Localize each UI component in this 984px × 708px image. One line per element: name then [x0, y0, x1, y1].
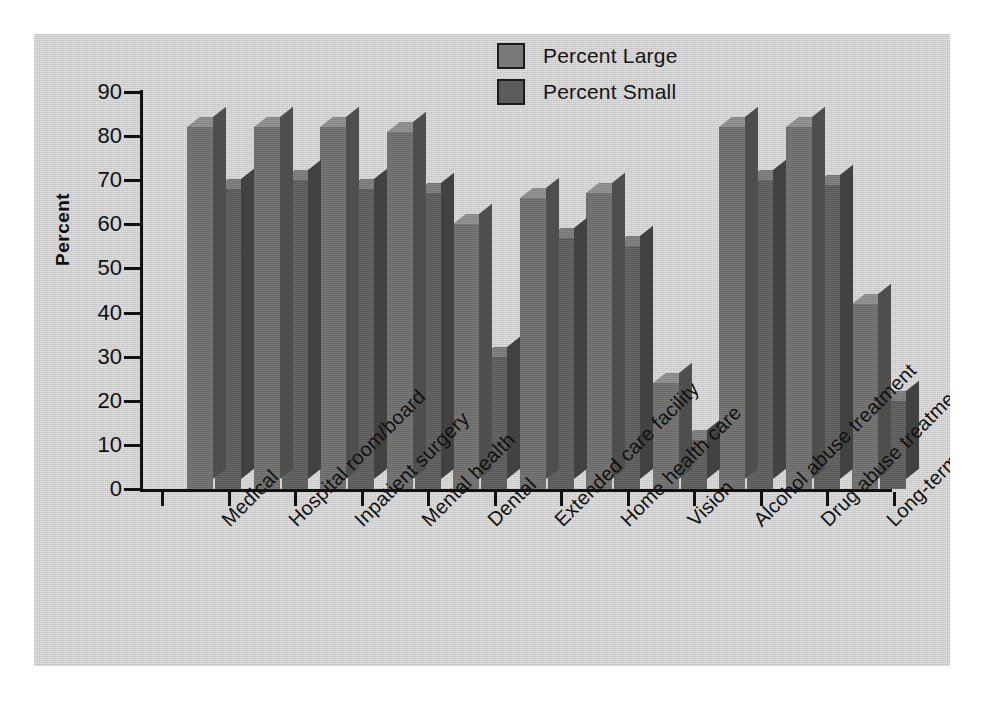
y-axis-tick [124, 444, 140, 447]
y-axis-tick [124, 91, 140, 94]
bar-percent-large [187, 127, 213, 489]
y-axis-tick-label: 40 [98, 300, 122, 326]
bar-percent-large [852, 304, 878, 489]
bar-side-face [640, 226, 653, 479]
x-axis-tick [627, 492, 630, 506]
bar-front-face [653, 383, 679, 489]
bar-front-face [586, 193, 612, 489]
y-axis-tick [124, 356, 140, 359]
y-axis-tick [124, 179, 140, 182]
bar-side-face [213, 107, 226, 479]
y-axis-tick-label: 50 [98, 255, 122, 281]
bar-side-face [745, 107, 758, 479]
bar-front-face [254, 127, 280, 489]
bar-side-face [612, 173, 625, 479]
y-axis-tick-label: 80 [98, 123, 122, 149]
bar-side-face [906, 381, 919, 479]
chart-panel: Percent Large Percent Small Percent 9080… [34, 34, 950, 666]
plot-area: 9080706050403020100 MedicalHospital room… [140, 34, 930, 666]
bar-side-face [413, 112, 426, 479]
y-axis-tick [124, 488, 140, 491]
y-axis-line [140, 90, 143, 491]
bar-side-face [546, 178, 559, 479]
bar-front-face [453, 224, 479, 489]
x-axis-tick [294, 492, 297, 506]
x-axis-tick [228, 492, 231, 506]
x-axis-tick [494, 492, 497, 506]
bar-front-face [719, 127, 745, 489]
bar-percent-large [254, 127, 280, 489]
bar-percent-large [320, 127, 346, 489]
y-axis-tick-label: 30 [98, 344, 122, 370]
bar-front-face [786, 127, 812, 489]
bar-front-face [387, 132, 413, 489]
bar-front-face [520, 198, 546, 489]
bar-percent-large [520, 198, 546, 489]
bar-side-face [840, 164, 853, 479]
y-axis-tick [124, 267, 140, 270]
y-axis-tick [124, 400, 140, 403]
x-axis-tick [427, 492, 430, 506]
x-axis-tick [893, 492, 896, 506]
bar-side-face [507, 336, 520, 478]
bar-percent-large [453, 224, 479, 489]
bar-side-face [773, 160, 786, 479]
bar-side-face [479, 204, 492, 479]
bar-side-face [707, 420, 720, 479]
bar-percent-large [653, 383, 679, 489]
bar-side-face [308, 160, 321, 479]
y-axis-tick-label: 0 [110, 476, 122, 502]
bar-side-face [574, 217, 587, 479]
y-axis-tick-label: 10 [98, 432, 122, 458]
y-axis-tick-label: 70 [98, 167, 122, 193]
bar-front-face [852, 304, 878, 489]
x-axis-tick [760, 492, 763, 506]
bar-side-face [679, 363, 692, 479]
bar-percent-large [719, 127, 745, 489]
bar-percent-large [387, 132, 413, 489]
y-axis-tick-label: 20 [98, 388, 122, 414]
x-axis-tick [161, 492, 164, 506]
y-axis-tick-labels: 9080706050403020100 [50, 34, 122, 666]
bar-front-face [187, 127, 213, 489]
y-axis-tick-label: 60 [98, 211, 122, 237]
bar-side-face [812, 107, 825, 479]
x-axis-tick [361, 492, 364, 506]
y-axis-tick-label: 90 [98, 79, 122, 105]
bar-side-face [878, 284, 891, 479]
y-axis-tick [124, 223, 140, 226]
bar-side-face [441, 173, 454, 479]
bar-side-face [280, 107, 293, 479]
y-axis-tick [124, 135, 140, 138]
y-axis-tick [124, 312, 140, 315]
bar-front-face [320, 127, 346, 489]
x-axis-tick [826, 492, 829, 506]
x-axis-tick [560, 492, 563, 506]
x-axis-line [140, 489, 892, 492]
bar-side-face [374, 169, 387, 479]
figure-canvas: Percent Large Percent Small Percent 9080… [0, 0, 984, 708]
bar-side-face [346, 107, 359, 479]
bar-percent-large [586, 193, 612, 489]
x-axis-tick [693, 492, 696, 506]
bar-percent-large [786, 127, 812, 489]
bar-side-face [241, 169, 254, 479]
